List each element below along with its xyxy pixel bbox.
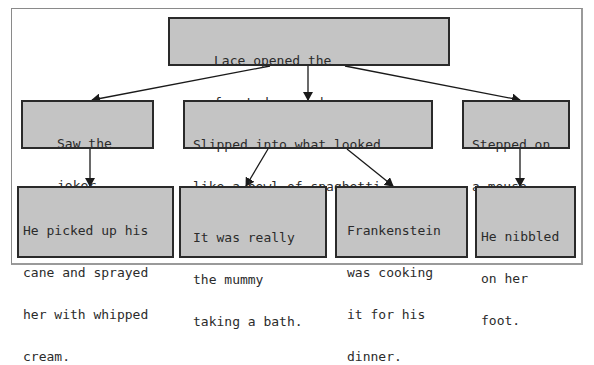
node-text-line: on her <box>481 272 574 286</box>
node-text-line: dinner. <box>347 350 466 364</box>
node-root: Lace opened the front door and . . . <box>168 17 450 66</box>
node-text-line: taking a bath. <box>193 315 325 329</box>
node-stepped-on-mouse: Stepped on a mouse. <box>462 100 570 149</box>
node-frankenstein-dinner: Frankenstein was cooking it for his dinn… <box>335 186 468 258</box>
node-text-line: Slipped into what looked <box>193 138 431 152</box>
node-text-line: the mummy <box>193 273 325 287</box>
node-text-line: cane and sprayed <box>23 266 172 280</box>
node-saw-the-joker: Saw the joker. <box>21 100 154 149</box>
node-text-line: foot. <box>481 314 574 328</box>
node-text-line: Frankenstein <box>347 224 466 238</box>
node-text-line: It was really <box>193 231 325 245</box>
node-text-line: Saw the <box>57 137 152 151</box>
node-text-line: Lace opened the <box>214 54 448 68</box>
node-text-line: was cooking <box>347 266 466 280</box>
node-mummy-bath: It was really the mummy taking a bath. <box>179 186 327 258</box>
node-text-line: He nibbled <box>481 230 574 244</box>
node-text-line: He picked up his <box>23 224 172 238</box>
node-text-line: Stepped on <box>472 138 568 152</box>
node-text-line: cream. <box>23 350 172 364</box>
node-whipped-cream: He picked up his cane and sprayed her wi… <box>17 186 174 258</box>
node-slipped-into-spaghetti: Slipped into what looked like a bowl of … <box>183 100 433 149</box>
node-nibbled-foot: He nibbled on her foot. <box>475 186 576 258</box>
node-text-line: her with whipped <box>23 308 172 322</box>
node-text-line: it for his <box>347 308 466 322</box>
